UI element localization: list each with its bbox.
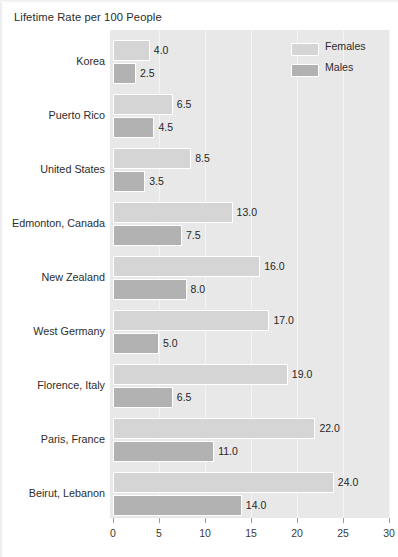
category-label: Korea bbox=[76, 55, 105, 67]
bar-female bbox=[113, 94, 173, 115]
bar-female bbox=[113, 148, 191, 169]
bar-value-female: 17.0 bbox=[273, 314, 293, 326]
bar-value-male: 7.5 bbox=[186, 229, 201, 241]
bar-value-female: 6.5 bbox=[177, 98, 192, 110]
bar-male bbox=[113, 441, 214, 462]
bar-male bbox=[113, 279, 187, 300]
x-tick-label: 15 bbox=[236, 527, 266, 539]
bar-value-female: 4.0 bbox=[154, 44, 169, 56]
category-label: Florence, Italy bbox=[37, 379, 105, 391]
x-tick-label: 5 bbox=[144, 527, 174, 539]
bar-male bbox=[113, 495, 242, 516]
category-label: Beirut, Lebanon bbox=[29, 487, 105, 499]
bar-value-female: 16.0 bbox=[264, 260, 284, 272]
bar-group: United States8.53.5 bbox=[0, 148, 398, 192]
bar-female bbox=[113, 40, 150, 61]
bar-male bbox=[113, 171, 145, 192]
legend-label: Females bbox=[325, 40, 366, 52]
x-tick-label: 0 bbox=[98, 527, 128, 539]
axis-tick bbox=[389, 518, 390, 523]
bar-group: Edmonton, Canada13.07.5 bbox=[0, 202, 398, 246]
legend-swatch-male bbox=[291, 64, 319, 77]
bar-group: Florence, Italy19.06.5 bbox=[0, 364, 398, 408]
bar-group: New Zealand16.08.0 bbox=[0, 256, 398, 300]
bar-value-female: 13.0 bbox=[237, 206, 257, 218]
legend-swatch-female bbox=[291, 43, 319, 56]
bar-value-male: 2.5 bbox=[140, 67, 155, 79]
x-tick-label: 25 bbox=[328, 527, 358, 539]
bar-group: Beirut, Lebanon24.014.0 bbox=[0, 472, 398, 516]
legend-label: Males bbox=[325, 61, 353, 73]
x-tick-label: 20 bbox=[282, 527, 312, 539]
bar-male bbox=[113, 63, 136, 84]
bar-value-female: 22.0 bbox=[319, 422, 339, 434]
axis-tick bbox=[343, 518, 344, 523]
bar-value-male: 14.0 bbox=[246, 499, 266, 511]
bar-value-male: 6.5 bbox=[177, 391, 192, 403]
bar-value-male: 8.0 bbox=[191, 283, 206, 295]
bar-group: Paris, France22.011.0 bbox=[0, 418, 398, 462]
bar-value-female: 24.0 bbox=[338, 476, 358, 488]
bar-value-male: 3.5 bbox=[149, 175, 164, 187]
axis-tick bbox=[297, 518, 298, 523]
bar-female bbox=[113, 310, 269, 331]
bar-value-male: 5.0 bbox=[163, 337, 178, 349]
bar-value-male: 11.0 bbox=[218, 445, 238, 457]
bar-group: West Germany17.05.0 bbox=[0, 310, 398, 354]
axis-tick bbox=[205, 518, 206, 523]
bar-female bbox=[113, 472, 334, 493]
x-tick-label: 30 bbox=[374, 527, 398, 539]
bar-value-male: 4.5 bbox=[158, 121, 173, 133]
category-label: United States bbox=[40, 163, 105, 175]
bar-male bbox=[113, 387, 173, 408]
axis-tick bbox=[113, 518, 114, 523]
bar-male bbox=[113, 117, 154, 138]
bar-male bbox=[113, 225, 182, 246]
bar-female bbox=[113, 202, 233, 223]
bar-female bbox=[113, 418, 315, 439]
category-label: New Zealand bbox=[41, 271, 105, 283]
chart-title: Lifetime Rate per 100 People bbox=[14, 11, 162, 23]
bar-female bbox=[113, 364, 288, 385]
bar-value-female: 19.0 bbox=[292, 368, 312, 380]
page-edge-top bbox=[0, 0, 398, 3]
bar-group: Puerto Rico6.54.5 bbox=[0, 94, 398, 138]
axis-tick bbox=[251, 518, 252, 523]
category-label: Puerto Rico bbox=[49, 109, 105, 121]
axis-tick bbox=[159, 518, 160, 523]
bar-female bbox=[113, 256, 260, 277]
x-tick-label: 10 bbox=[190, 527, 220, 539]
category-label: West Germany bbox=[33, 325, 105, 337]
category-label: Paris, France bbox=[41, 433, 105, 445]
bar-value-female: 8.5 bbox=[195, 152, 210, 164]
bar-male bbox=[113, 333, 159, 354]
category-label: Edmonton, Canada bbox=[12, 217, 105, 229]
